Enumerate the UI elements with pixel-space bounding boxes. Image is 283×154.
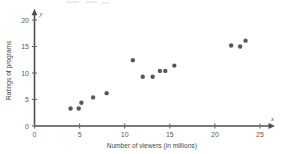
data-point xyxy=(150,75,154,79)
x-tick-label: 25 xyxy=(256,131,264,138)
scatter-plot-figure: 0510152025 05101520 Number of viewers (i… xyxy=(0,0,283,154)
data-point xyxy=(243,38,247,42)
data-point xyxy=(163,69,167,73)
data-point xyxy=(158,69,162,73)
data-point xyxy=(141,75,145,79)
data-points xyxy=(68,38,247,110)
x-tick-label: 0 xyxy=(33,131,37,138)
y-axis-variable-label: y xyxy=(39,10,43,17)
x-axis-variable-label: x xyxy=(270,115,274,122)
x-tick-label: 10 xyxy=(121,131,129,138)
plot-canvas: 0510152025 05101520 Number of viewers (i… xyxy=(0,0,283,154)
y-axis-label: Ratings of programs xyxy=(5,40,13,100)
data-point xyxy=(229,43,233,47)
x-tick-label: 5 xyxy=(78,131,82,138)
y-tick-label: 20 xyxy=(21,17,29,24)
x-tick-labels: 0510152025 xyxy=(33,131,264,138)
y-tick-label: 5 xyxy=(25,96,29,103)
data-point xyxy=(172,63,176,67)
tick-marks xyxy=(32,20,260,129)
y-tick-label: 10 xyxy=(21,70,29,77)
data-point xyxy=(131,58,135,62)
y-tick-label: 15 xyxy=(21,43,29,50)
y-tick-label: 0 xyxy=(25,123,29,130)
x-axis-arrowhead xyxy=(269,123,276,129)
data-point xyxy=(68,106,72,110)
x-axis-label: Number of viewers (in millions) xyxy=(107,142,197,150)
data-point xyxy=(238,44,242,48)
data-point xyxy=(79,100,83,104)
y-axis-arrowhead xyxy=(32,9,38,16)
y-tick-labels: 05101520 xyxy=(21,17,29,130)
data-point xyxy=(104,91,108,95)
data-point xyxy=(91,95,95,99)
scan-artifacts xyxy=(66,1,110,4)
data-point xyxy=(76,106,80,110)
axes xyxy=(32,9,275,129)
x-tick-label: 15 xyxy=(166,131,174,138)
x-tick-label: 20 xyxy=(211,131,219,138)
